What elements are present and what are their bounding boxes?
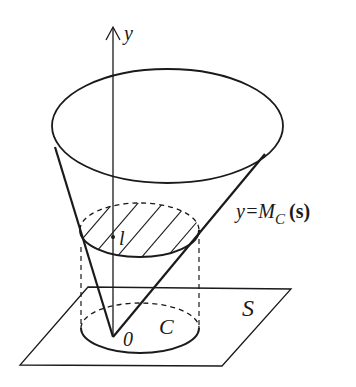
y-axis-label: y	[122, 22, 133, 45]
surface-eq-prefix: y=M	[234, 200, 276, 223]
level-point	[111, 235, 115, 239]
plane-s-label: S	[242, 295, 254, 321]
level-label: l	[119, 227, 125, 249]
level-set-front	[80, 230, 199, 257]
cone-top-rim	[52, 69, 283, 183]
set-c-front	[81, 328, 199, 353]
cone-diagram: y y=MC(s) l 0 C S	[0, 0, 356, 387]
surface-eq-sub: C	[275, 211, 286, 227]
level-set-back	[80, 203, 199, 230]
surface-eq-arg: (s)	[289, 200, 310, 223]
set-c-back	[81, 303, 199, 328]
set-c-label: C	[159, 314, 174, 339]
origin-label: 0	[123, 328, 133, 350]
surface-equation: y=MC(s)	[234, 200, 310, 227]
